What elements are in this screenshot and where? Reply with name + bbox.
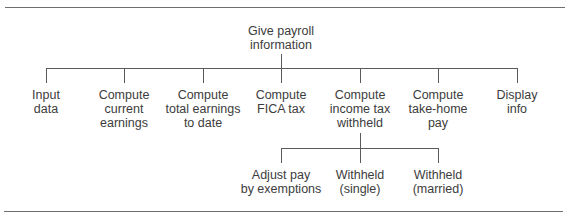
tick-compute-take-home-pay [438, 68, 439, 83]
tick-display-info [517, 68, 518, 83]
node-label-line: pay [383, 116, 493, 130]
tick-withheld-single [360, 148, 361, 163]
node-label-line: info [462, 102, 572, 116]
node-label-line: (married) [383, 182, 493, 196]
node-label-line: Display [462, 88, 572, 102]
node-label-line: to date [148, 116, 258, 130]
tick-input-data [46, 68, 47, 83]
root-node-give-payroll-information: Give payroll information [226, 24, 336, 52]
tick-compute-current-earnings [124, 68, 125, 83]
tick-compute-income-tax-withheld [360, 68, 361, 83]
node-label-line: Withheld [383, 168, 493, 182]
node-withheld-married: Withheld (married) [383, 168, 493, 196]
bottom-rule [4, 211, 563, 212]
tick-compute-total-earnings [203, 68, 204, 83]
node-label-line: Give payroll [226, 24, 336, 38]
level1-bus [46, 68, 518, 69]
node-display-info: Display info [462, 88, 572, 116]
top-rule [5, 7, 565, 8]
root-connector [281, 54, 282, 69]
node-label-line: information [226, 38, 336, 52]
level2-parent-connector [360, 133, 361, 148]
tick-compute-fica-tax [281, 68, 282, 83]
tick-withheld-married [438, 148, 439, 163]
tick-adjust-pay [281, 148, 282, 163]
